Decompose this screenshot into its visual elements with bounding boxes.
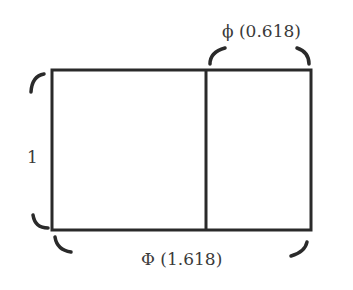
big-phi-label: Φ (1.618): [141, 249, 222, 269]
top-brace: [210, 48, 309, 64]
outer-rectangle: [52, 70, 311, 230]
phi-label: ϕ (0.618): [222, 21, 301, 41]
golden-rectangle-diagram: ϕ (0.618) 1 Φ (1.618): [0, 0, 353, 290]
unit-height-label: 1: [27, 147, 38, 167]
